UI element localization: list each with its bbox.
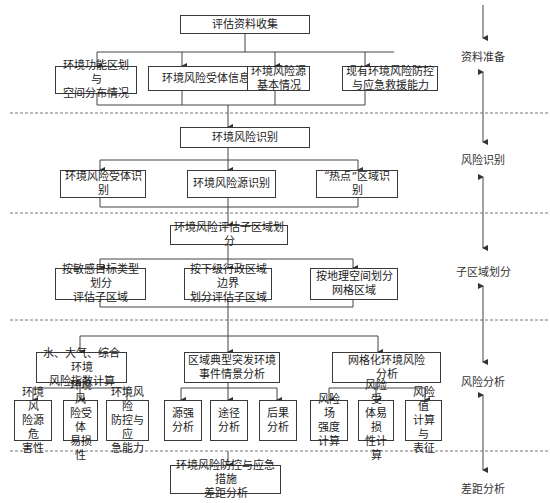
node-consequence: 后果 分析 xyxy=(259,400,297,441)
node-subregion: 环境风险评估子区域划分 xyxy=(170,225,288,245)
node-by-target: 按敏感目标类型划分 评估子区域 xyxy=(55,268,146,300)
phase-label-gap-analysis: 差距分析 xyxy=(461,480,505,496)
node-pathway: 途径 分析 xyxy=(210,400,248,441)
node-source-basic: 环境风险源 基本情况 xyxy=(247,66,310,91)
node-vulnerability: 环境风 险受体 易损性 xyxy=(63,400,98,441)
node-risk-value: 风险值 计算与 表征 xyxy=(405,400,442,441)
node-existing-capacity: 现有环境风险防控 与应急救援能力 xyxy=(342,66,438,91)
phase-label-risk-identification: 风险识别 xyxy=(461,151,505,167)
node-func-zone: 环境功能区划与 空间分布情况 xyxy=(55,66,137,94)
node-receptor-vuln-calc: 风险受 体易损 性计算 xyxy=(358,400,394,441)
node-gap: 环境风险防控与应急措施 差距分析 xyxy=(170,465,281,494)
node-identify: 环境风险识别 xyxy=(180,127,310,148)
node-collect: 评估资料收集 xyxy=(180,15,310,34)
flowchart-canvas: 评估资料收集 环境功能区划与 空间分布情况 环境风险受体信息 环境风险源 基本情… xyxy=(0,0,550,503)
phase-label-risk-analysis: 风险分析 xyxy=(461,373,505,389)
node-receptor-id: 环境风险受体识别 xyxy=(60,170,146,198)
node-by-admin: 按下级行政区域边界 划分评估子区域 xyxy=(184,268,272,300)
node-hazard: 环境风 险源危 害性 xyxy=(14,400,52,441)
phase-label-subregion: 子区域划分 xyxy=(456,263,511,279)
node-source-strength: 源强 分析 xyxy=(164,400,202,441)
node-hotspot-id: “热点”区域识别 xyxy=(316,170,398,198)
node-field-intensity: 风险场 强度 计算 xyxy=(310,400,348,441)
node-source-id: 环境风险源识别 xyxy=(187,170,276,198)
node-scenario: 区域典型突发环境 事件情景分析 xyxy=(184,352,280,383)
node-control-capacity: 环境风险 防控与应 急能力 xyxy=(106,400,149,441)
node-by-grid: 按地理空间划分 网格区域 xyxy=(310,268,398,300)
phase-label-data-prep: 资料准备 xyxy=(461,48,505,64)
